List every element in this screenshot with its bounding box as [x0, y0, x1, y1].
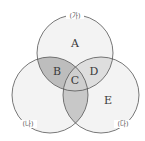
set-label-ga: (가)	[69, 11, 80, 20]
set-label-na: (나)	[22, 119, 33, 128]
region-label-a: A	[70, 37, 80, 50]
region-label-b: B	[53, 65, 61, 78]
region-label-e: E	[104, 94, 112, 107]
venn-diagram: (가) (나) (다) A B C D E	[0, 0, 145, 141]
set-label-da: (다)	[117, 119, 128, 128]
region-label-c: C	[71, 74, 79, 87]
region-label-d: D	[90, 65, 99, 78]
